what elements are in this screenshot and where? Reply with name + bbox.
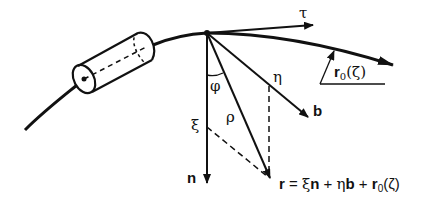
phi-arc [207, 73, 223, 76]
formula-eq: = [285, 175, 302, 192]
rho-vector [207, 33, 270, 178]
formula-xi: ξ [302, 175, 310, 193]
position-formula: r = ξn + ηb + r0(ζ) [279, 176, 400, 194]
eta-label: η [273, 70, 282, 85]
phi-label: φ [210, 79, 221, 94]
formula-eta: η [337, 175, 346, 193]
rho-label: ρ [226, 110, 235, 125]
tau-label: τ [299, 6, 307, 21]
formula-b: b [346, 175, 355, 192]
formula-plus2: + [355, 175, 372, 192]
tau-vector [207, 25, 313, 33]
b-label: b [313, 103, 322, 118]
formula-n: n [310, 175, 319, 192]
r0-label: r0(ζ) [334, 64, 366, 82]
xi-label: ξ [191, 118, 199, 133]
r0-argument: (ζ) [346, 63, 366, 81]
b-vector [207, 33, 308, 117]
formula-plus1: + [319, 175, 336, 192]
formula-r0-arg: (ζ) [383, 175, 400, 192]
n-label: n [187, 170, 196, 185]
rod-element-cylinder [68, 33, 154, 97]
